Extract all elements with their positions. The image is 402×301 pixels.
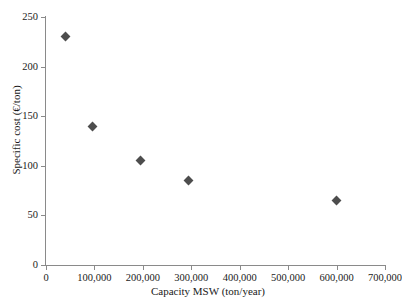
x-tick-mark (288, 266, 289, 270)
x-tick-label: 0 (43, 272, 48, 283)
y-axis-title-text: Specific cost (€/ton) (10, 85, 22, 174)
x-tick-label: 100,000 (77, 272, 111, 283)
x-tick-label: 700,000 (368, 272, 402, 283)
x-tick-label: 300,000 (174, 272, 208, 283)
scatter-chart: 050100150200250 0100,000200,000300,00040… (0, 0, 402, 301)
x-tick-mark (385, 266, 386, 270)
y-tick-mark (41, 116, 45, 117)
y-tick-label-text: 50 (28, 210, 39, 220)
y-tick-label: 50 (0, 210, 38, 220)
x-tick-mark (46, 266, 47, 270)
y-tick-mark (41, 67, 45, 68)
y-tick-mark (41, 166, 45, 167)
x-tick-mark (94, 266, 95, 270)
y-tick-label: 0 (0, 260, 38, 270)
y-tick-label: 250 (0, 12, 38, 22)
y-tick-label-text: 250 (22, 12, 38, 22)
x-tick-mark (337, 266, 338, 270)
y-tick-label-text: 150 (22, 111, 38, 121)
x-tick-label: 200,000 (126, 272, 160, 283)
plot-area (46, 17, 385, 265)
y-tick-mark (41, 215, 45, 216)
y-tick-label-text: 100 (22, 161, 38, 171)
x-tick-mark (240, 266, 241, 270)
y-tick-label-text: 200 (22, 62, 38, 72)
x-tick-label: 400,000 (223, 272, 257, 283)
x-tick-mark (143, 266, 144, 270)
x-tick-label: 500,000 (271, 272, 305, 283)
y-axis-title: Specific cost (€/ton) (10, 55, 22, 205)
x-tick-label: 600,000 (320, 272, 354, 283)
x-axis-title-text: Capacity MSW (ton/year) (151, 285, 265, 297)
y-tick-mark (41, 265, 45, 266)
x-tick-mark (191, 266, 192, 270)
y-tick-mark (41, 17, 45, 18)
x-axis-title: Capacity MSW (ton/year) (0, 285, 402, 297)
y-tick-label-text: 0 (33, 260, 38, 270)
x-axis-line (45, 265, 386, 266)
